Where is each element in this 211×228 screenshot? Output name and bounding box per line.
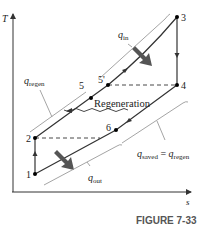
q-out-bracket <box>44 145 122 185</box>
arrow-1-2-icon <box>33 151 38 156</box>
process-2-3 <box>35 17 177 138</box>
point-6 <box>114 128 118 132</box>
heat-out-arrow-icon <box>54 150 74 170</box>
q-saved-equals-q-regen-label: qsaved = qregen <box>137 148 190 161</box>
q-regen-label: qregen <box>24 75 45 88</box>
regeneration-arrowhead-icon <box>66 108 72 113</box>
q-regen-leader <box>40 90 52 117</box>
s-axis-label: s <box>186 197 190 207</box>
label-4: 4 <box>181 80 186 91</box>
q-regen-bracket <box>30 92 86 132</box>
arrow-3-4-icon <box>175 53 180 58</box>
point-5p <box>106 83 110 87</box>
point-2 <box>33 136 37 140</box>
label-6: 6 <box>106 122 111 133</box>
label-2: 2 <box>26 133 31 144</box>
ts-diagram: T s 1 2 3 4 5 5' 6 <box>0 0 211 228</box>
label-3: 3 <box>181 12 186 23</box>
q-in-label: qin <box>118 29 129 42</box>
heat-in-arrow-icon <box>132 46 152 66</box>
label-1: 1 <box>26 169 31 180</box>
label-5: 5 <box>79 80 84 91</box>
q-in-bracket-tick <box>128 44 132 47</box>
point-5 <box>89 96 93 100</box>
regeneration-arrow: Regeneration <box>64 98 151 113</box>
q-in-bracket <box>100 14 170 78</box>
regeneration-label: Regeneration <box>94 98 151 109</box>
point-3 <box>175 15 179 19</box>
label-5p: 5' <box>98 74 105 85</box>
figure-caption: FIGURE 7-33 <box>136 215 197 226</box>
q-out-label: qout <box>88 172 102 185</box>
point-1 <box>33 172 37 176</box>
q-out-leader <box>87 162 90 166</box>
q-saved-leader <box>157 121 165 140</box>
t-axis-label: T <box>2 13 9 24</box>
point-4 <box>175 83 179 87</box>
